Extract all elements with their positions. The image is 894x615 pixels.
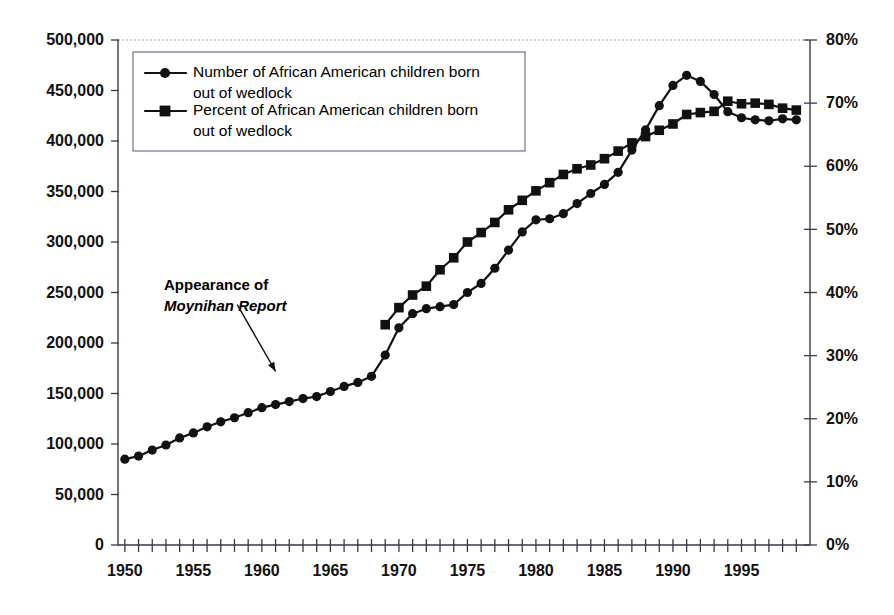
chart-legend: Number of African American children born… xyxy=(133,52,525,151)
chart-figure: 050,000100,000150,000200,000250,000300,0… xyxy=(0,0,894,615)
data-point-marker xyxy=(709,90,718,99)
data-point-marker xyxy=(408,290,418,300)
x-axis-tick-label: 1985 xyxy=(587,562,623,579)
data-point-marker xyxy=(161,440,170,449)
data-point-marker xyxy=(600,180,609,189)
right-axis-tick-label: 10% xyxy=(826,473,858,490)
data-point-marker xyxy=(435,302,444,311)
right-axis-tick-label: 50% xyxy=(826,221,858,238)
data-point-marker xyxy=(312,392,321,401)
legend-label-line-1: Number of African American children born xyxy=(193,63,480,80)
annotation-line-2: Moynihan Report xyxy=(164,297,288,314)
left-axis-tick-label: 450,000 xyxy=(46,82,104,99)
data-point-marker xyxy=(517,196,527,206)
data-point-marker xyxy=(572,199,581,208)
legend-label-line-2: out of wedlock xyxy=(193,84,292,101)
x-axis-tick-label: 1965 xyxy=(313,562,349,579)
data-point-marker xyxy=(477,279,486,288)
data-point-marker xyxy=(696,108,706,118)
data-point-marker xyxy=(750,98,760,108)
data-point-marker xyxy=(518,227,527,236)
legend-label-line-2: out of wedlock xyxy=(193,122,292,139)
right-axis-tick-label: 70% xyxy=(826,94,858,111)
data-point-marker xyxy=(559,170,569,180)
data-point-marker xyxy=(696,77,705,86)
left-axis-tick-label: 200,000 xyxy=(46,334,104,351)
data-point-marker xyxy=(737,99,747,109)
data-point-marker xyxy=(531,186,541,196)
data-point-marker xyxy=(463,288,472,297)
data-point-marker xyxy=(655,101,664,110)
data-point-marker xyxy=(257,403,266,412)
data-point-marker xyxy=(422,281,432,291)
x-axis-tick-label: 1980 xyxy=(518,562,554,579)
data-point-marker xyxy=(600,154,610,164)
data-point-marker xyxy=(353,378,362,387)
x-axis-tick-label: 1970 xyxy=(381,562,417,579)
data-point-marker xyxy=(586,189,595,198)
data-point-marker xyxy=(244,408,253,417)
data-point-marker xyxy=(792,105,802,115)
data-point-marker xyxy=(737,113,746,122)
right-axis-tick-label: 60% xyxy=(826,157,858,174)
left-axis-tick-label: 100,000 xyxy=(46,435,104,452)
x-axis-tick-label: 1950 xyxy=(107,562,143,579)
x-axis-tick-label: 1960 xyxy=(244,562,280,579)
data-point-marker xyxy=(340,382,349,391)
data-point-marker xyxy=(394,303,404,313)
right-axis-tick-label: 0% xyxy=(826,536,849,553)
data-point-marker xyxy=(751,115,760,124)
data-point-marker xyxy=(476,228,486,238)
right-axis-tick-label: 20% xyxy=(826,410,858,427)
data-point-marker xyxy=(627,145,636,154)
data-point-marker xyxy=(271,400,280,409)
data-point-marker xyxy=(504,205,514,215)
data-point-marker xyxy=(490,218,500,228)
data-point-marker xyxy=(326,387,335,396)
data-point-marker xyxy=(723,107,732,116)
data-point-marker xyxy=(764,100,774,110)
left-axis-tick-label: 350,000 xyxy=(46,183,104,200)
data-point-marker xyxy=(202,422,211,431)
data-point-marker xyxy=(422,304,431,313)
data-point-marker xyxy=(490,264,499,273)
data-point-marker xyxy=(175,433,184,442)
data-point-marker xyxy=(148,445,157,454)
data-point-marker xyxy=(764,116,773,125)
data-point-marker xyxy=(723,96,733,106)
data-point-marker xyxy=(531,215,540,224)
data-point-marker xyxy=(778,103,788,113)
data-point-marker xyxy=(641,125,650,134)
left-axis-tick-label: 250,000 xyxy=(46,284,104,301)
x-axis-tick-label: 1975 xyxy=(450,562,486,579)
data-point-marker xyxy=(504,245,513,254)
data-point-marker xyxy=(613,146,623,156)
annotation-line-1: Appearance of xyxy=(164,276,269,293)
data-point-marker xyxy=(572,164,582,174)
data-point-marker xyxy=(298,394,307,403)
legend-marker-circle xyxy=(160,68,170,78)
left-axis-tick-label: 0 xyxy=(95,536,104,553)
data-point-marker xyxy=(682,71,691,80)
data-point-marker xyxy=(545,178,555,188)
data-point-marker xyxy=(463,237,473,247)
left-axis-tick-label: 300,000 xyxy=(46,233,104,250)
data-point-marker xyxy=(216,417,225,426)
data-point-marker xyxy=(449,253,459,263)
data-point-marker xyxy=(189,428,198,437)
dual-axis-line-chart: 050,000100,000150,000200,000250,000300,0… xyxy=(0,0,894,615)
left-axis-tick-label: 500,000 xyxy=(46,31,104,48)
data-point-marker xyxy=(586,160,596,170)
data-point-marker xyxy=(654,125,664,135)
data-point-marker xyxy=(682,110,692,120)
x-axis-tick-label: 1955 xyxy=(176,562,212,579)
data-point-marker xyxy=(394,323,403,332)
data-point-marker xyxy=(668,119,678,129)
data-point-marker xyxy=(435,265,445,275)
right-axis-tick-label: 40% xyxy=(826,284,858,301)
right-axis-tick-label: 80% xyxy=(826,31,858,48)
data-point-marker xyxy=(668,81,677,90)
data-point-marker xyxy=(545,214,554,223)
data-point-marker xyxy=(778,114,787,123)
legend-marker-square xyxy=(160,106,171,117)
